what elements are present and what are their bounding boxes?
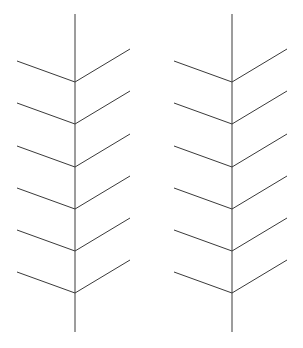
canvas-background xyxy=(0,0,303,348)
chevron-diagram-canvas xyxy=(0,0,303,348)
